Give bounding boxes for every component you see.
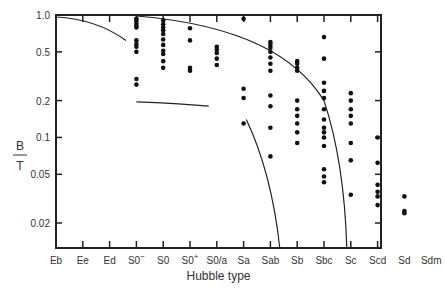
data-point [375, 183, 380, 188]
data-point [322, 167, 327, 172]
x-tick-label: Sdm [421, 255, 442, 266]
data-point [322, 56, 327, 61]
x-tick-label: Sb [291, 255, 304, 266]
y-tick-label: 1.0 [36, 10, 50, 21]
chart: 1.00.50.20.10.050.02 EbEeEdS0−S0S0+S0/aS… [0, 0, 445, 290]
data-point [322, 174, 327, 179]
steep-curve-sab [246, 120, 280, 248]
x-tick-label: Sab [262, 255, 280, 266]
data-point [375, 189, 380, 194]
data-point [349, 121, 354, 126]
x-tick-label: S0− [128, 252, 145, 266]
data-point [349, 114, 354, 119]
data-point [268, 61, 273, 66]
data-point [241, 86, 246, 91]
y-tick-label: 0.5 [36, 47, 50, 58]
x-tick-label: Ed [103, 255, 115, 266]
x-tick-label: Eb [50, 255, 63, 266]
data-point [215, 63, 220, 68]
data-point [375, 135, 380, 140]
x-tick-label: Ee [77, 255, 90, 266]
data-point [134, 82, 139, 87]
upper-left-curve [56, 17, 126, 40]
data-point [295, 107, 300, 112]
data-point [295, 69, 300, 74]
data-point [322, 89, 327, 94]
data-point [349, 141, 354, 146]
data-point [268, 45, 273, 50]
data-point [322, 144, 327, 149]
data-point [268, 93, 273, 98]
data-point [161, 52, 166, 57]
data-point [268, 69, 273, 74]
data-points [134, 17, 407, 216]
data-point [322, 117, 327, 122]
upper-main-curve [136, 16, 346, 248]
data-point [322, 135, 327, 140]
data-point [375, 194, 380, 199]
y-tick-label: 0.2 [36, 96, 50, 107]
data-point [268, 55, 273, 60]
x-tick-label: S0/a [207, 255, 228, 266]
data-point [295, 130, 300, 135]
data-point [215, 51, 220, 56]
y-tick-label: 0.05 [31, 169, 51, 180]
data-point [241, 121, 246, 126]
data-point [349, 107, 354, 112]
x-tick-label: Scd [369, 255, 386, 266]
x-tick-label: Sc [345, 255, 357, 266]
data-point [322, 107, 327, 112]
lower-flat-curve [136, 102, 208, 106]
data-point [295, 114, 300, 119]
data-point [161, 66, 166, 71]
data-point [268, 104, 273, 109]
data-point [161, 43, 166, 48]
data-point [188, 26, 193, 31]
data-point [295, 61, 300, 66]
curves [56, 16, 347, 248]
data-point [161, 59, 166, 64]
x-tick-label: Sbc [315, 255, 332, 266]
data-point [134, 77, 139, 82]
x-tick-label: Sd [398, 255, 410, 266]
data-point [241, 17, 246, 22]
data-point [268, 154, 273, 159]
data-point [188, 38, 193, 43]
data-point [402, 211, 407, 216]
y-axis-title-denominator: T [16, 159, 24, 173]
x-axis-title: Hubble type [186, 269, 250, 283]
data-point [322, 180, 327, 185]
data-point [268, 125, 273, 130]
data-point [134, 50, 139, 55]
data-point [134, 25, 139, 30]
x-tick-label: Sa [237, 255, 250, 266]
y-tick-label: 0.1 [36, 132, 50, 143]
data-point [134, 44, 139, 49]
data-point [322, 80, 327, 85]
data-point [295, 121, 300, 126]
data-point [322, 130, 327, 135]
data-point [322, 35, 327, 40]
data-point [241, 96, 246, 101]
data-point [402, 194, 407, 199]
axes: 1.00.50.20.10.050.02 [31, 10, 381, 248]
x-tick-label: S0+ [182, 252, 199, 266]
data-point [215, 56, 220, 61]
data-point [268, 50, 273, 55]
data-point [322, 125, 327, 130]
data-point [349, 192, 354, 197]
data-point [295, 98, 300, 103]
x-tick-label: S0 [157, 255, 170, 266]
y-tick-label: 0.02 [31, 218, 51, 229]
data-point [349, 158, 354, 163]
data-point [188, 69, 193, 74]
data-point [375, 203, 380, 208]
data-point [375, 161, 380, 166]
data-point [349, 98, 354, 103]
data-point [295, 141, 300, 146]
data-point [161, 37, 166, 42]
data-point [322, 96, 327, 101]
y-axis-title-numerator: B [16, 139, 24, 153]
data-point [161, 32, 166, 37]
data-point [349, 91, 354, 96]
